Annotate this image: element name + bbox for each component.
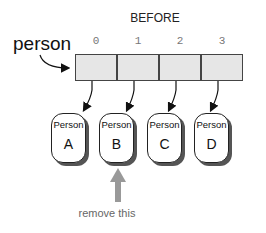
object-name: D [195, 136, 228, 152]
person-object: Person C [147, 113, 182, 163]
array-cell [75, 54, 117, 81]
person-object: Person D [194, 113, 229, 163]
index-label: 3 [201, 35, 243, 47]
array-cell [117, 54, 159, 81]
person-object: Person B [99, 113, 134, 163]
object-name: B [100, 136, 133, 152]
object-name: A [52, 136, 85, 152]
array-cell [159, 54, 201, 81]
variable-label: person [13, 33, 71, 55]
object-type: Person [148, 119, 181, 130]
remove-arrow-icon [110, 168, 126, 202]
diagram: BEFORE person 0 1 2 3 Person A Person B … [0, 0, 266, 233]
diagram-title: BEFORE [22, 11, 266, 25]
object-name: C [148, 136, 181, 152]
index-label: 0 [75, 35, 117, 47]
variable-pointer-arrow [40, 55, 68, 68]
index-label: 2 [159, 35, 201, 47]
array-cell [201, 54, 243, 81]
person-object: Person A [51, 113, 86, 163]
object-type: Person [195, 119, 228, 130]
index-label: 1 [117, 35, 159, 47]
annotation-label: remove this [54, 207, 160, 219]
object-type: Person [100, 119, 133, 130]
object-type: Person [52, 119, 85, 130]
